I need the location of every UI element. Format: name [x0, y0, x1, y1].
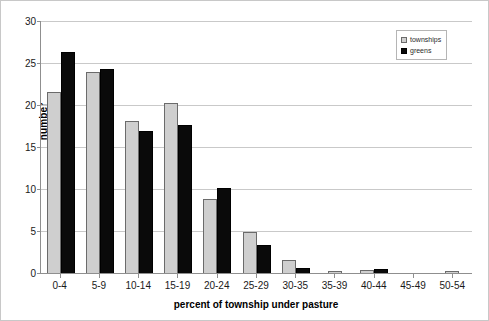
- bar-group: [41, 21, 80, 273]
- x-tick-label: 35-39: [315, 280, 354, 291]
- bar-townships-35-39: [328, 271, 342, 273]
- x-tick-cell: 20-24: [197, 274, 236, 298]
- x-tick-label: 20-24: [197, 280, 236, 291]
- bar-townships-40-44: [360, 270, 374, 273]
- y-tick-label: 0: [30, 268, 36, 279]
- x-tick-mark: [256, 274, 257, 278]
- chart-legend: townshipsgreens: [396, 30, 447, 60]
- x-tick-cell: 30-35: [276, 274, 315, 298]
- legend-swatch-greens: [401, 48, 407, 54]
- x-tick-mark: [217, 274, 218, 278]
- x-tick-mark: [138, 274, 139, 278]
- bar-townships-5-9: [86, 72, 100, 273]
- x-tick-mark: [374, 274, 375, 278]
- legend-label: greens: [410, 46, 431, 55]
- x-tick-mark: [334, 274, 335, 278]
- x-tick-mark: [295, 274, 296, 278]
- bar-chart-figure: number 051015202530 0-45-910-1415-1920-2…: [0, 0, 489, 321]
- x-tick-label: 30-35: [276, 280, 315, 291]
- bar-townships-0-4: [47, 92, 61, 273]
- x-tick-cell: 5-9: [79, 274, 118, 298]
- y-tick-label: 5: [30, 226, 36, 237]
- bar-group: [276, 21, 315, 273]
- legend-label: townships: [410, 35, 441, 44]
- x-tick-mark: [452, 274, 453, 278]
- x-tick-cell: 10-14: [119, 274, 158, 298]
- bar-group: [119, 21, 158, 273]
- bar-greens-5-9: [100, 69, 114, 273]
- x-tick-mark: [60, 274, 61, 278]
- bar-greens-40-44: [374, 269, 388, 273]
- x-tick-label: 10-14: [119, 280, 158, 291]
- x-tick-label: 15-19: [158, 280, 197, 291]
- bar-townships-50-54: [445, 271, 459, 273]
- bar-group: [198, 21, 237, 273]
- x-tick-cell: 0-4: [40, 274, 79, 298]
- bar-group: [355, 21, 394, 273]
- x-tick-mark: [413, 274, 414, 278]
- bar-greens-10-14: [139, 131, 153, 273]
- bar-group: [315, 21, 354, 273]
- x-tick-label: 0-4: [40, 280, 79, 291]
- x-tick-label: 25-29: [236, 280, 275, 291]
- legend-item-townships: townships: [401, 34, 441, 45]
- x-tick-mark: [99, 274, 100, 278]
- x-tick-label: 5-9: [79, 280, 118, 291]
- bar-townships-10-14: [125, 121, 139, 273]
- y-tick-label: 30: [25, 16, 36, 27]
- x-tick-label: 50-54: [433, 280, 472, 291]
- x-tick-cell: 45-49: [393, 274, 432, 298]
- bar-greens-25-29: [257, 245, 271, 273]
- bar-group: [237, 21, 276, 273]
- bar-group: [80, 21, 119, 273]
- y-tick-label: 15: [25, 142, 36, 153]
- y-tick-label: 20: [25, 100, 36, 111]
- x-tick-cell: 15-19: [158, 274, 197, 298]
- x-axis-title: percent of township under pasture: [40, 299, 472, 310]
- bar-townships-15-19: [164, 103, 178, 273]
- x-tick-label: 45-49: [393, 280, 432, 291]
- x-tick-cell: 35-39: [315, 274, 354, 298]
- x-axis-ticks: 0-45-910-1415-1920-2425-2930-3535-3940-4…: [40, 274, 472, 298]
- x-tick-mark: [177, 274, 178, 278]
- legend-item-greens: greens: [401, 45, 441, 56]
- bar-group: [159, 21, 198, 273]
- x-tick-cell: 25-29: [236, 274, 275, 298]
- bar-greens-15-19: [178, 125, 192, 273]
- bar-townships-20-24: [203, 199, 217, 273]
- y-tick-label: 25: [25, 58, 36, 69]
- x-tick-label: 40-44: [354, 280, 393, 291]
- bar-greens-0-4: [61, 52, 75, 273]
- bar-townships-30-35: [282, 260, 296, 273]
- bar-townships-25-29: [243, 232, 257, 273]
- legend-swatch-townships: [401, 37, 407, 43]
- bar-greens-30-35: [296, 268, 310, 273]
- bar-greens-20-24: [217, 188, 231, 273]
- x-tick-cell: 40-44: [354, 274, 393, 298]
- y-tick-label: 10: [25, 184, 36, 195]
- x-tick-cell: 50-54: [433, 274, 472, 298]
